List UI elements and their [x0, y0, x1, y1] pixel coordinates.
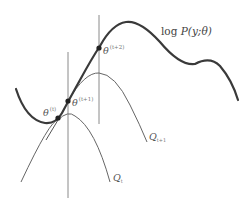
label-q-t: Qt [113, 172, 123, 184]
objective-label-prefix: log [161, 25, 181, 37]
theta-symbol: θ [103, 45, 109, 56]
point-theta-t1 [65, 98, 70, 103]
diagram-svg [0, 0, 250, 205]
q-subscript: t [121, 178, 123, 184]
label-q-t1: Qt+1 [149, 131, 166, 143]
objective-label-func: P [181, 25, 188, 37]
point-theta-t2 [96, 45, 101, 50]
label-theta-t2: θ(t+2) [103, 44, 124, 56]
bound-curve-q-t [21, 114, 110, 182]
theta-superscript: (t+1) [79, 96, 94, 102]
theta-symbol: θ [43, 107, 49, 118]
objective-label-args: (y;θ) [188, 25, 212, 37]
q-symbol: Q [113, 172, 121, 183]
q-symbol: Q [149, 131, 157, 142]
theta-superscript: (t) [50, 106, 57, 112]
theta-symbol: θ [72, 97, 78, 108]
q-subscript: t+1 [157, 137, 166, 143]
objective-label: log P(y;θ) [161, 25, 212, 37]
theta-superscript: (t+2) [110, 44, 125, 50]
label-theta-t: θ(t) [43, 106, 56, 118]
em-diagram: log P(y;θ) θ(t) θ(t+1) θ(t+2) Qt+1 Qt [0, 0, 250, 205]
label-theta-t1: θ(t+1) [72, 96, 93, 108]
